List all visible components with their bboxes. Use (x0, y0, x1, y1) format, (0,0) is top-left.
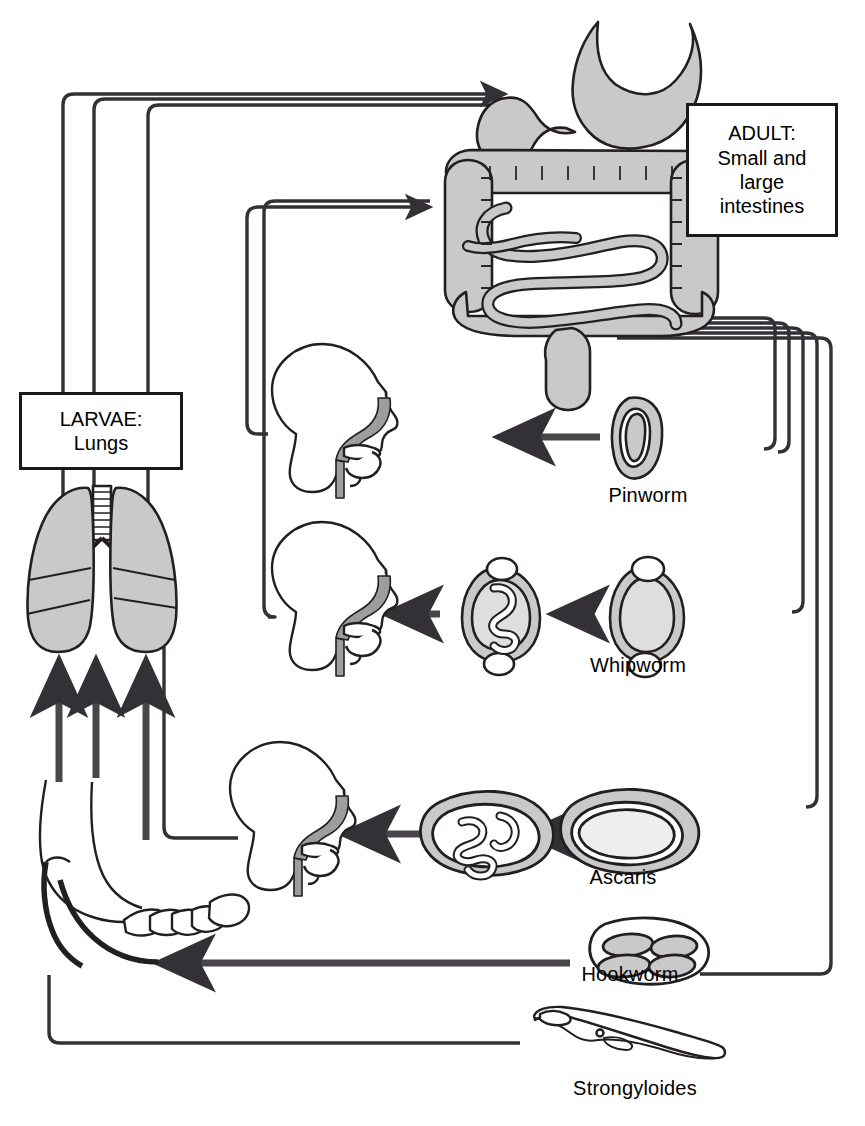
label-hookworm: Hookworm (535, 963, 725, 986)
lungs-illustration (27, 486, 177, 652)
head-mouth-pharynx-2-illustration (272, 522, 397, 676)
flow-mouth3-to-lungs (164, 640, 238, 838)
adult-box-line-1: ADULT: (689, 121, 835, 145)
pinworm-egg-illustration (612, 398, 662, 479)
adult-box-line-2: Small and (689, 146, 835, 170)
ascaris-embryonated-egg-illustration (420, 791, 553, 876)
head-mouth-pharynx-1-illustration (272, 344, 397, 498)
larvae-stage-box: LARVAE: Lungs (19, 392, 183, 470)
head-mouth-pharynx-3-illustration (230, 742, 355, 896)
flow-strongyloides-to-foot (49, 975, 520, 1043)
adult-stage-box: ADULT: Small and large intestines (686, 103, 838, 237)
stomach-and-intestines-illustration (445, 22, 724, 410)
whipworm-embryonated-egg-illustration (462, 558, 540, 675)
label-pinworm: Pinworm (553, 484, 743, 507)
label-strongyloides: Strongyloides (510, 1077, 760, 1100)
larvae-box-line-2: Lungs (22, 431, 180, 455)
strongyloides-larva-illustration (534, 1007, 725, 1059)
label-whipworm: Whipworm (543, 654, 733, 677)
adult-box-line-4: intestines (689, 194, 835, 218)
diagram-canvas: ADULT: Small and large intestines LARVAE… (0, 0, 865, 1126)
adult-box-line-3: large (689, 170, 835, 194)
label-ascaris: Ascaris (528, 866, 718, 889)
ascaris-egg-illustration (561, 789, 699, 873)
larvae-box-line-1: LARVAE: (22, 407, 180, 431)
